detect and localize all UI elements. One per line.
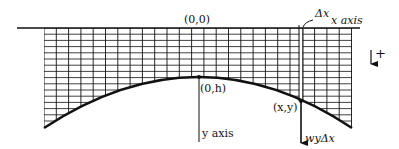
origin-label: (0,0) [184, 13, 210, 26]
vertex-point [197, 75, 201, 79]
point-label: (x,y) [273, 101, 298, 114]
force-label: wyΔx [305, 132, 336, 145]
plus-direction-label: + [375, 46, 386, 61]
dam-diagram: (0,0) x axis Δx (0,h) (x,y) wyΔx y axis … [0, 0, 399, 149]
water-grid-hatching [44, 28, 352, 149]
diagram-canvas: (0,0) x axis Δx (0,h) (x,y) wyΔx y axis … [0, 0, 399, 149]
y-axis-label: y axis [201, 127, 234, 140]
vertex-label: (0,h) [200, 82, 226, 95]
delta-x-pointer-icon [303, 20, 313, 27]
parabolic-arc-curve [44, 77, 352, 128]
delta-x-label: Δx [314, 7, 330, 20]
x-axis-label: x axis [331, 14, 363, 27]
